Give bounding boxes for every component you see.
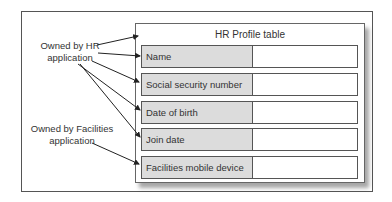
annotation-arrows bbox=[0, 0, 392, 202]
